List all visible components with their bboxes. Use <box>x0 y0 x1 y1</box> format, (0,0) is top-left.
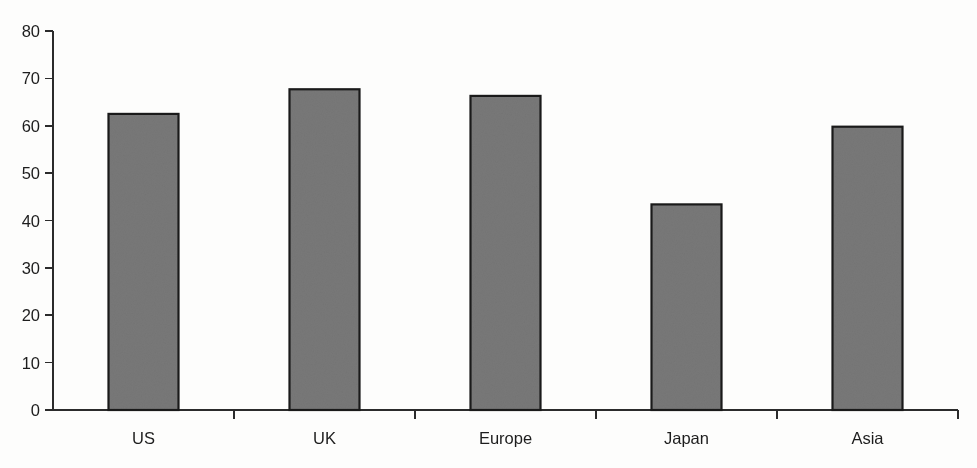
bar-texture-uk <box>291 91 358 409</box>
bar-texture-europe <box>472 97 539 408</box>
y-tick-label-0: 0 <box>31 401 40 419</box>
bar-texture-asia <box>834 128 901 408</box>
bar-texture-japan <box>653 206 720 409</box>
y-tick-label-10: 10 <box>22 354 40 372</box>
y-tick-label-30: 30 <box>22 259 40 277</box>
y-tick-label-50: 50 <box>22 164 40 182</box>
y-tick-label-80: 80 <box>22 22 40 40</box>
bar-texture-us <box>110 115 177 408</box>
x-label-asia: Asia <box>851 429 884 447</box>
y-tick-label-70: 70 <box>22 69 40 87</box>
y-tick-label-40: 40 <box>22 212 40 230</box>
y-tick-label-20: 20 <box>22 306 40 324</box>
x-label-us: US <box>132 429 155 447</box>
y-tick-label-60: 60 <box>22 117 40 135</box>
x-label-japan: Japan <box>664 429 709 447</box>
x-label-europe: Europe <box>479 429 532 447</box>
bar-chart: 01020304050607080 USUKEuropeJapanAsia <box>0 0 977 468</box>
x-label-uk: UK <box>313 429 336 447</box>
chart-canvas: 01020304050607080 USUKEuropeJapanAsia <box>0 0 977 468</box>
y-axis-tick-labels: 01020304050607080 <box>22 22 40 419</box>
